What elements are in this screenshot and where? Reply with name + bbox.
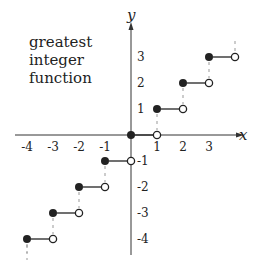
open-dot-icon <box>101 183 108 190</box>
y-tick-label: -4 <box>137 232 149 246</box>
closed-dot-icon <box>23 235 31 243</box>
x-axis-label: x <box>239 126 248 144</box>
y-tick-label: 1 <box>137 102 145 116</box>
y-tick-label: -2 <box>137 180 149 194</box>
open-dot-icon <box>49 235 56 242</box>
open-dot-icon <box>153 131 160 138</box>
y-axis-label: y <box>126 6 136 24</box>
title-line: integer <box>29 51 85 69</box>
open-dot-icon <box>75 209 82 216</box>
open-dot-icon <box>179 105 186 112</box>
title-line: greatest <box>29 33 92 51</box>
x-tick-label: 1 <box>153 140 161 154</box>
y-tick-label: 2 <box>137 76 145 90</box>
closed-dot-icon <box>75 183 83 191</box>
closed-dot-icon <box>127 131 135 139</box>
open-dot-icon <box>205 79 212 86</box>
greatest-integer-plot: xy -4-3-2-1123321-1-2-3-4 greatestintege… <box>0 0 261 269</box>
x-tick-label: -1 <box>99 140 111 154</box>
closed-dot-icon <box>101 157 109 165</box>
open-dot-icon <box>231 53 238 60</box>
closed-dot-icon <box>179 79 187 87</box>
closed-dot-icon <box>153 105 161 113</box>
closed-dot-icon <box>205 53 213 61</box>
chart-title: greatestintegerfunction <box>29 33 92 87</box>
y-tick-label: -3 <box>137 206 149 220</box>
closed-dot-icon <box>49 209 57 217</box>
x-tick-label: 2 <box>179 140 187 154</box>
x-tick-label: -2 <box>73 140 85 154</box>
x-tick-label: 3 <box>205 140 213 154</box>
x-tick-label: -4 <box>21 140 33 154</box>
title-line: function <box>29 69 92 87</box>
y-tick-label: -1 <box>137 154 149 168</box>
open-dot-icon <box>127 157 134 164</box>
x-tick-label: -3 <box>47 140 59 154</box>
y-tick-label: 3 <box>137 50 145 64</box>
